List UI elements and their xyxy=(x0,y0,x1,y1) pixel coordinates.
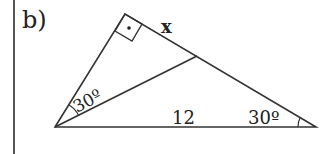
label-base-length: 12 xyxy=(172,107,195,128)
label-angle-right: 30º xyxy=(248,107,279,128)
label-x: x xyxy=(161,16,172,37)
label-angle-left: 30º xyxy=(69,85,105,117)
triangle-diagram: x 12 30º 30º xyxy=(0,0,336,154)
right-angle-dot xyxy=(127,26,131,30)
angle-arc-right xyxy=(298,118,300,127)
